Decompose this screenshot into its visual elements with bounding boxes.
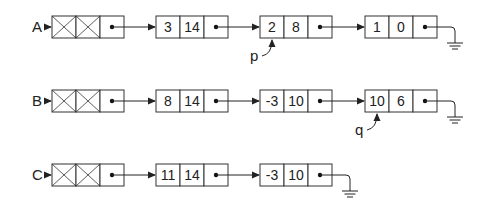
- exponent: 6: [397, 93, 405, 109]
- header-node: [52, 16, 155, 38]
- exponent: 14: [184, 167, 200, 183]
- ground-icon: [447, 43, 463, 49]
- list-label: B: [32, 92, 42, 109]
- list-node: 1114: [156, 164, 259, 186]
- list-node: 10: [365, 16, 463, 49]
- header-node: [52, 164, 155, 186]
- coefficient: -3: [266, 167, 279, 183]
- ground-icon: [447, 117, 463, 123]
- list-b: B814-310106q: [32, 90, 463, 138]
- list-node: 28: [260, 16, 364, 38]
- header-node: [52, 90, 155, 112]
- exponent: 0: [397, 19, 405, 35]
- coefficient: 1: [373, 19, 381, 35]
- coefficient: 2: [268, 19, 276, 35]
- pointer-label: q: [355, 121, 363, 138]
- pointer-p: p: [250, 40, 272, 64]
- exponent: 10: [288, 167, 304, 183]
- list-label: C: [32, 166, 43, 183]
- list-a: A3142810p: [32, 16, 463, 64]
- ground-icon: [342, 191, 358, 197]
- list-node: 106: [365, 90, 463, 123]
- coefficient: -3: [266, 93, 279, 109]
- list-label: A: [32, 18, 42, 35]
- linked-list-diagram: A3142810pB814-310106qC1114-310: [0, 0, 486, 212]
- pointer-q: q: [355, 114, 377, 138]
- exponent: 14: [184, 19, 200, 35]
- coefficient: 8: [164, 93, 172, 109]
- list-node: 814: [156, 90, 259, 112]
- pointer-arrow: [367, 114, 377, 130]
- exponent: 14: [184, 93, 200, 109]
- coefficient: 3: [164, 19, 172, 35]
- list-node: -310: [260, 164, 358, 197]
- pointer-arrow: [262, 40, 272, 56]
- list-node: -310: [260, 90, 364, 112]
- exponent: 8: [292, 19, 300, 35]
- pointer-label: p: [250, 47, 258, 64]
- exponent: 10: [288, 93, 304, 109]
- coefficient: 10: [369, 93, 385, 109]
- list-node: 314: [156, 16, 259, 38]
- coefficient: 11: [161, 167, 176, 183]
- list-c: C1114-310: [32, 164, 358, 197]
